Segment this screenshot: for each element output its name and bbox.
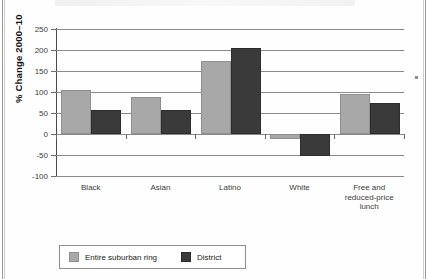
x-tick-4 [334, 134, 335, 139]
chart-page: % Change 2000–10 250200150100500-50-100 … [0, 0, 428, 279]
plot-area: 250200150100500-50-100 BlackAsianLatinoW… [56, 29, 404, 176]
y-tick-label-0: 0 [44, 130, 48, 139]
y-tick-label--100: -100 [32, 172, 48, 181]
bar-1-1 [161, 110, 191, 134]
y-tick-250 [51, 29, 56, 30]
x-label-line: Latino [219, 183, 241, 192]
y-tick-label-50: 50 [39, 109, 48, 118]
x-axis-label-3: White [261, 183, 339, 193]
x-label-line: White [289, 183, 309, 192]
x-axis-label-2: Latino [191, 183, 269, 193]
x-axis-label-1: Asian [121, 183, 199, 193]
page-border-right [425, 0, 426, 279]
bar-1-0 [91, 110, 121, 134]
y-tick--50 [51, 155, 56, 156]
page-border-right-inner [423, 0, 424, 279]
gridline--50 [56, 155, 404, 156]
gridline-250 [56, 29, 404, 30]
y-tick-label-150: 150 [35, 67, 48, 76]
legend-swatch-icon-dark [181, 252, 191, 262]
x-label-line: lunch [360, 202, 379, 211]
legend-item-entire-suburban-ring: Entire suburban ring [69, 252, 157, 262]
chart-legend: Entire suburban ring District [59, 245, 246, 269]
y-tick-150 [51, 71, 56, 72]
legend-label-1: District [197, 253, 221, 262]
gridline-0 [56, 134, 404, 135]
x-tick-1 [126, 134, 127, 139]
bar-1-4 [370, 103, 400, 134]
cropped-title-artifact [55, 0, 355, 6]
x-label-line: Black [81, 183, 101, 192]
x-tick-2 [195, 134, 196, 139]
x-label-line: Free and [353, 183, 385, 192]
x-tick-3 [265, 134, 266, 139]
y-tick-label-100: 100 [35, 88, 48, 97]
page-border-left-inner [4, 0, 5, 279]
y-tick-100 [51, 92, 56, 93]
legend-label-0: Entire suburban ring [85, 253, 157, 262]
y-tick-200 [51, 50, 56, 51]
y-tick--100 [51, 176, 56, 177]
y-tick-label-250: 250 [35, 25, 48, 34]
y-tick-50 [51, 113, 56, 114]
bar-0-3 [270, 134, 300, 139]
x-label-line: Asian [150, 183, 170, 192]
bar-0-1 [131, 97, 161, 134]
gridline--100 [56, 176, 404, 177]
x-tick-end [404, 134, 405, 139]
legend-swatch-icon-light [69, 252, 79, 262]
page-speck-artifact [415, 76, 418, 79]
page-border-left [2, 0, 3, 279]
bar-0-4 [340, 94, 370, 134]
y-tick-label--50: -50 [36, 151, 48, 160]
bar-1-2 [231, 48, 261, 134]
bar-0-0 [61, 90, 91, 134]
x-label-line: reduced-price [345, 193, 394, 202]
bar-0-2 [201, 61, 231, 134]
x-axis-label-4: Free andreduced-pricelunch [330, 183, 408, 212]
legend-item-district: District [181, 252, 221, 262]
y-axis-title: % Change 2000–10 [13, 14, 24, 103]
x-tick-0 [56, 134, 57, 139]
x-axis-label-0: Black [52, 183, 130, 193]
y-tick-label-200: 200 [35, 46, 48, 55]
bar-1-3 [300, 134, 330, 156]
